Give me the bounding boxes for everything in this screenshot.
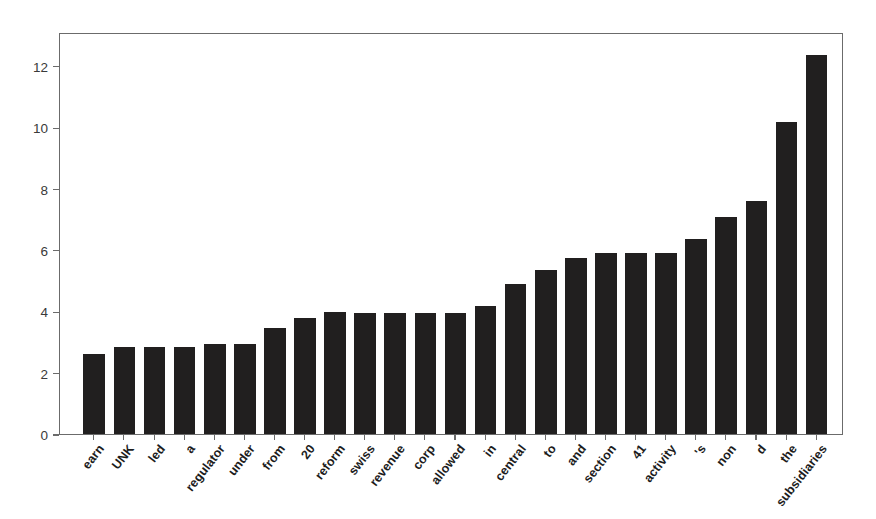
x-axis-tick-label: earn [80,442,108,472]
y-axis-tick-label: 4 [40,305,48,320]
x-axis-tick-mark [605,435,606,440]
y-axis-tick-label: 10 [33,121,48,136]
x-axis-tick-label: the [777,442,800,466]
x-axis-tick-mark [274,435,275,440]
y-axis-tick-label: 2 [40,366,48,381]
bar [565,258,587,434]
y-axis-tick-mark [53,189,59,190]
x-axis-tick-mark [816,435,817,440]
x-axis-tick-mark [786,435,787,440]
x-axis-tick-mark [575,435,576,440]
x-axis-tick-mark [515,435,516,440]
x-axis-tick-label: in [481,442,499,460]
x-axis-tick-label: non [714,442,739,469]
x-axis-tick-label: UNK [110,442,138,472]
bar [114,347,136,434]
bar [806,55,828,434]
bar [324,312,346,434]
plot-area [59,33,843,435]
bar [234,344,256,434]
bar [204,344,226,434]
y-axis-tick-mark [53,66,59,67]
x-axis-tick-mark [214,435,215,440]
x-axis-tick-label: under [225,442,258,478]
x-axis-tick-mark [755,435,756,440]
x-axis-tick-label: 20 [298,442,318,462]
x-axis-tick-mark [123,435,124,440]
x-axis-tick-mark [424,435,425,440]
x-axis-tick-label: and [564,442,589,468]
bar [144,347,166,434]
bar [445,313,467,434]
x-axis-tick-mark [184,435,185,440]
bar [655,253,677,434]
x-axis-tick-mark [695,435,696,440]
y-axis-tick-mark [53,312,59,313]
bar-chart-figure: 024681012 earnUNKledaregulatorunderfrom2… [0,0,876,519]
x-axis-tick-label: 41 [629,442,649,462]
bar [354,313,376,434]
x-axis-tick-mark [454,435,455,440]
x-axis-tick-mark [485,435,486,440]
x-axis-tick-label: led [145,442,167,465]
bar [83,354,105,434]
x-axis-tick-label: corp [410,442,438,472]
bar [475,306,497,434]
x-axis-tick-mark [394,435,395,440]
y-axis-tick-label: 8 [40,182,48,197]
y-axis-labels: 024681012 [0,0,48,519]
x-axis-tick-mark [665,435,666,440]
y-axis-tick-mark [53,250,59,251]
x-axis-tick-mark [725,435,726,440]
x-axis-tick-label: central [492,442,529,483]
x-axis-tick-mark [244,435,245,440]
x-axis-tick-label: to [540,442,558,460]
x-axis-tick-mark [545,435,546,440]
x-axis-tick-mark [154,435,155,440]
bar [384,313,406,434]
y-axis-tick-mark [53,128,59,129]
x-axis-tick-mark [334,435,335,440]
y-axis-tick-label: 6 [40,243,48,258]
bar [264,328,286,434]
bar [415,313,437,434]
bar [625,253,647,434]
x-axis-tick-mark [304,435,305,440]
y-axis-tick-label: 0 [40,428,48,443]
x-axis-tick-mark [635,435,636,440]
y-axis-tick-mark [53,373,59,374]
x-axis-tick-label: 's [692,442,709,459]
x-axis-tick-label: a [182,442,197,456]
x-axis-tick-label: d [754,442,770,457]
bar [715,217,737,434]
x-axis-tick-mark [364,435,365,440]
y-axis-tick-label: 12 [33,59,48,74]
bar [535,270,557,434]
bar [685,239,707,434]
bar [505,284,527,434]
x-axis-tick-label: from [260,442,288,473]
bar [776,122,798,434]
x-axis-tick-mark [93,435,94,440]
bars-layer [60,34,842,434]
bar [294,318,316,434]
bar [595,253,617,434]
bar [746,201,768,434]
x-axis-tick-label: reform [312,442,348,482]
bar [174,347,196,434]
y-axis-tick-mark [53,434,59,435]
